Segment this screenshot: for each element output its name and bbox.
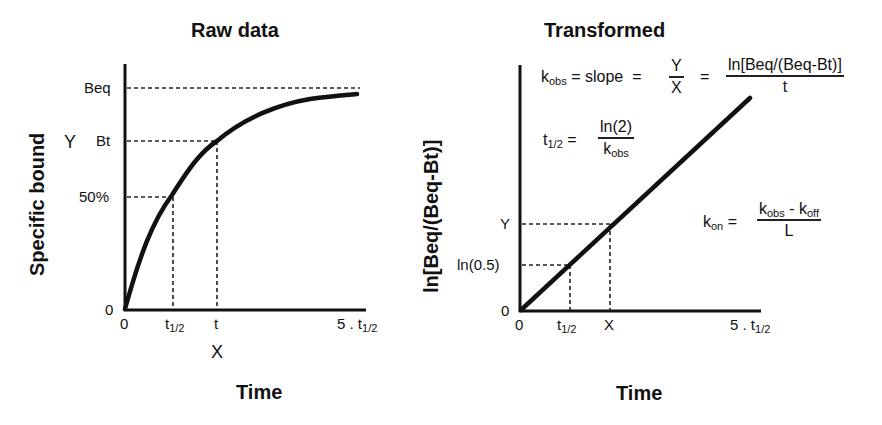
right-xtick-zero: 0 [515,317,523,332]
right-ytick-y: Y [500,216,510,231]
right-plot [519,65,761,312]
left-x-marker: X [211,343,223,361]
left-y-marker: Y [64,133,76,151]
left-xtick-t-half: t1/2 [165,316,184,331]
kon-equation-lhs: kon = [703,214,737,230]
linear-fit-line [521,98,750,310]
kobs-equation-lhs: kobs = slope = [541,69,641,85]
t-half-equation-lhs: t1/2 = [543,132,577,148]
ln2-over-kobs-fraction: ln(2) kobs [598,118,634,159]
left-y-axis-title: Specific bound [27,133,47,276]
right-xtick-t-half: t1/2 [557,317,576,332]
y-over-x-fraction: Y X [669,57,684,98]
right-xtick-x: X [604,317,614,332]
equals-sign: = [700,69,709,85]
right-title: Transformed [544,20,665,40]
right-y-axis-title: ln[Beq/(Beq-Bt)] [421,140,441,293]
left-ytick-beq: Beq [84,80,111,95]
left-xtick-zero: 0 [120,316,128,331]
ln-ratio-fraction: ln[Beq/(Beq-Bt)] t [726,56,844,97]
kon-fraction: kobs - koff L [757,200,821,241]
left-ytick-zero: 0 [105,302,113,317]
right-ytick-zero: 0 [501,303,509,318]
left-x-axis-title: Time [236,382,282,402]
association-curve [125,94,357,309]
left-xtick-t: t [214,316,218,331]
left-title: Raw data [191,20,279,40]
right-x-axis-title: Time [616,383,662,403]
left-plot [124,64,366,311]
right-ytick-ln05: ln(0.5) [457,257,500,272]
left-ytick-bt: Bt [96,133,110,148]
right-xtick-five: 5 . t1/2 [730,317,770,332]
left-xtick-five: 5 . t1/2 [337,316,377,331]
left-ytick-half: 50% [79,189,109,204]
